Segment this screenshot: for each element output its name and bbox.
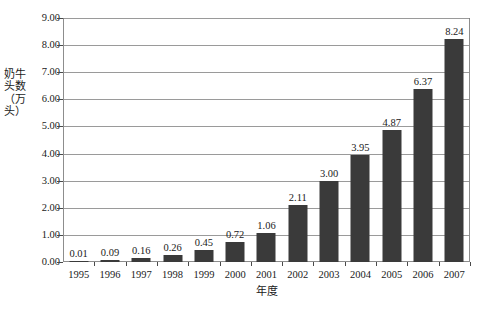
bar-series: 0.010.090.160.260.450.721.062.113.003.95… [63,18,470,262]
x-axis-tick-mark [439,262,440,266]
y-axis-tick-label: 0.00 [26,257,60,268]
bar [445,39,464,262]
bar-value-label: 0.01 [69,248,87,259]
bar [320,181,339,262]
bar-value-label: 0.09 [101,247,119,258]
bar-value-label: 0.72 [226,229,244,240]
bar-value-label: 1.06 [257,220,275,231]
y-axis-tick-label: 7.00 [26,67,60,78]
x-axis-tick-mark [407,262,408,266]
x-axis-tick-mark [282,262,283,266]
y-axis-tick-label: 5.00 [26,121,60,132]
bar-value-label: 3.95 [351,142,369,153]
bar [351,155,370,262]
bar-group: 3.00 [313,18,344,262]
y-axis-tick-label: 8.00 [26,40,60,51]
x-axis-tick-label: 1996 [99,268,120,281]
x-axis-title: 年度 [63,285,470,298]
x-axis-tick-mark [157,262,158,266]
y-axis-tick-label: 9.00 [26,13,60,24]
bar [288,205,307,262]
bar [414,89,433,262]
x-axis-tick-label: 2006 [413,268,434,281]
x-axis-tick-mark [345,262,346,266]
x-axis-tick-label: 2007 [444,268,465,281]
bar-value-label: 8.24 [445,26,463,37]
bar-group: 6.37 [407,18,438,262]
x-axis-tick-label: 2005 [381,268,402,281]
bar-value-label: 0.16 [132,245,150,256]
x-axis-tick-label: 2004 [350,268,371,281]
bar-group: 4.87 [376,18,407,262]
x-axis-tick-label: 2002 [287,268,308,281]
bar-group: 3.95 [345,18,376,262]
bar-group: 2.11 [282,18,313,262]
x-axis-tick-mark [188,262,189,266]
x-axis-tick-mark [220,262,221,266]
x-axis-tick-mark [376,262,377,266]
x-axis-tick-label-group: 1995199619971998199920002001200220032004… [63,268,470,284]
x-axis-tick-label: 2001 [256,268,277,281]
y-axis-title: 奶牛头数（万头） [4,68,26,118]
bar [194,250,213,262]
y-axis-tick-label: 6.00 [26,94,60,105]
y-axis-tick-label: 1.00 [26,230,60,241]
bar-value-label: 0.26 [163,242,181,253]
bar-group: 8.24 [439,18,470,262]
y-axis-tick-label: 2.00 [26,203,60,214]
bar-group: 0.45 [188,18,219,262]
bar [257,233,276,262]
bar-value-label: 4.87 [383,117,401,128]
bar-group: 0.72 [220,18,251,262]
bar-chart: 奶牛头数（万头） 0.001.002.003.004.005.006.007.0… [0,0,486,311]
bar-group: 0.26 [157,18,188,262]
x-axis-tick-label: 1997 [131,268,152,281]
x-axis-tick-mark [313,262,314,266]
bar-value-label: 3.00 [320,168,338,179]
bar-value-label: 6.37 [414,76,432,87]
bar [226,242,245,262]
x-axis-tick-label: 1995 [68,268,89,281]
bar-group: 0.16 [126,18,157,262]
bar [163,255,182,262]
bar-group: 0.09 [94,18,125,262]
x-axis-tick-label: 1998 [162,268,183,281]
y-axis-tick-label: 3.00 [26,175,60,186]
x-axis-tick-mark [470,262,471,266]
x-axis-tick-label: 2003 [319,268,340,281]
x-axis-tick-mark [251,262,252,266]
bar-group: 1.06 [251,18,282,262]
bar [382,130,401,262]
bar-value-label: 2.11 [289,192,307,203]
bar-group: 0.01 [63,18,94,262]
bar-value-label: 0.45 [195,237,213,248]
y-axis-tick-label-group: 0.001.002.003.004.005.006.007.008.009.00 [26,18,60,262]
x-axis-tick-mark [94,262,95,266]
y-axis-tick-label: 4.00 [26,148,60,159]
x-axis-tick-mark [126,262,127,266]
x-axis-tick-label: 1999 [193,268,214,281]
x-axis-tick-mark-group [63,262,470,267]
x-axis-tick-label: 2000 [225,268,246,281]
